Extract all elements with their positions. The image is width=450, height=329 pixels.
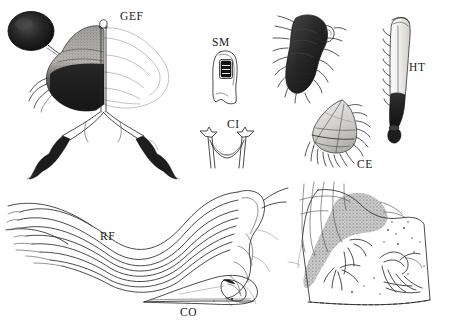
figure-co (140, 272, 264, 308)
figure-label-sm: SM (212, 37, 230, 49)
figure-habitat-box (288, 182, 448, 328)
figure-label-co: CO (180, 307, 197, 319)
figure-gef (0, 0, 200, 180)
figure-ht (378, 14, 426, 146)
habitat-insect-sketch (380, 252, 422, 293)
gef-legs (27, 112, 179, 179)
figure-label-ce: CE (357, 159, 373, 171)
figure-label-gef: GEF (120, 11, 144, 23)
figure-label-ci: CI (227, 119, 240, 131)
figure-sm (203, 48, 251, 110)
figure-ci (196, 126, 258, 172)
figure-ce (300, 94, 380, 168)
figure-dark-palp (272, 8, 348, 104)
illustration-plate: GEF SM CI (0, 0, 450, 329)
gef-knob (8, 12, 63, 59)
figure-label-rf: RF (100, 231, 115, 243)
figure-label-ht: HT (409, 62, 426, 74)
gef-wing (104, 28, 169, 108)
